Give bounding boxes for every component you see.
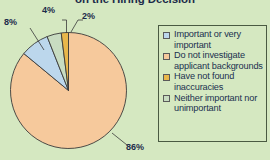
slice-label-2pct: 2%: [82, 11, 95, 21]
legend-item[interactable]: Important or very important: [163, 29, 264, 50]
legend-item-label: Neither important nor unimportant: [174, 93, 264, 114]
slice-label-86pct: 86%: [126, 142, 144, 152]
pie-slices-group: [10, 33, 126, 149]
legend-item-label: Do not investigate applicant backgrounds: [174, 50, 264, 71]
legend-swatch-icon: [163, 53, 170, 60]
legend-item[interactable]: Do not investigate applicant backgrounds: [163, 50, 264, 71]
legend-item-label: Important or very important: [174, 29, 264, 50]
legend-item[interactable]: Neither important nor unimportant: [163, 93, 264, 114]
legend-swatch-icon: [163, 74, 170, 81]
pie-chart-figure: on the Hiring Decision 8% 4% 2% 86% Impo…: [0, 0, 270, 160]
legend-item-label: Have not found inaccuracies: [174, 71, 264, 92]
leader-line-86pct: [112, 133, 127, 145]
chart-legend: Important or very important Do not inves…: [158, 25, 267, 142]
slice-label-8pct: 8%: [4, 17, 17, 27]
slice-label-4pct: 4%: [42, 5, 55, 15]
legend-swatch-icon: [163, 95, 170, 102]
legend-item[interactable]: Have not found inaccuracies: [163, 71, 264, 92]
leader-line-2pct: [71, 20, 83, 32]
leader-line-4pct: [62, 20, 67, 33]
legend-swatch-icon: [163, 32, 170, 39]
